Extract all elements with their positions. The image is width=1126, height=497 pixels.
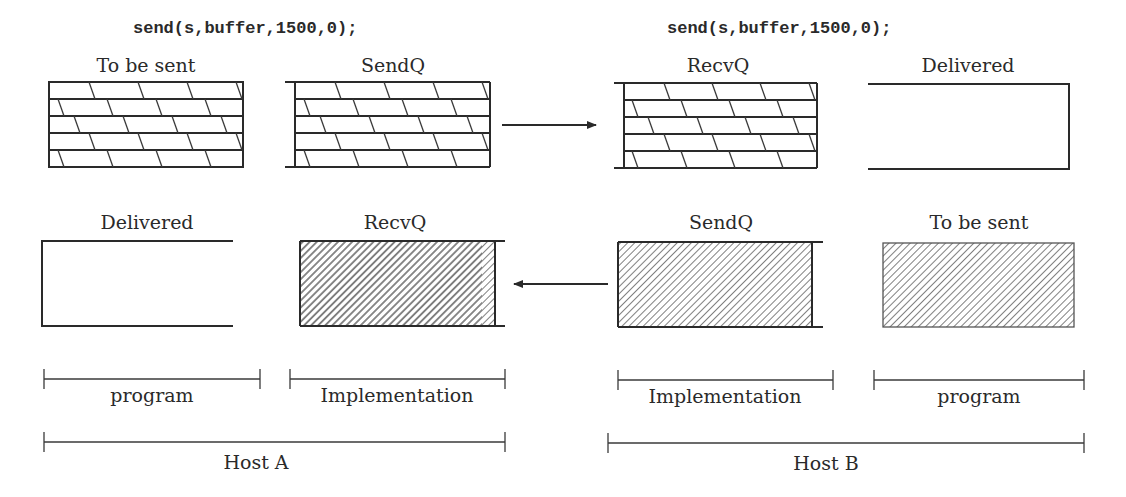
host-b-sendq-label: SendQ — [689, 211, 753, 233]
host-b-bracket — [608, 433, 1084, 453]
host-a-program-label: program — [110, 384, 193, 406]
host-b-to-be-sent-buffer — [883, 243, 1074, 327]
host-b-label: Host B — [793, 452, 858, 474]
host-b-recvq-buffer — [614, 83, 817, 168]
host-a-bracket — [44, 432, 505, 452]
host-a-to-be-sent-label: To be sent — [97, 54, 196, 76]
host-b-recvq-label: RecvQ — [687, 54, 750, 76]
host-b-send-call: send(s,buffer,1500,0); — [667, 19, 891, 38]
host-a-delivered-buffer — [42, 241, 233, 326]
host-a-sendq-buffer — [285, 82, 490, 167]
host-a-sendq-label: SendQ — [361, 54, 425, 76]
host-a-recvq-buffer — [300, 241, 505, 326]
host-b-program-label: program — [937, 385, 1020, 407]
host-a-label: Host A — [223, 451, 288, 473]
host-b-sendq-buffer — [618, 242, 823, 327]
host-a-send-call: send(s,buffer,1500,0); — [133, 19, 357, 38]
host-b-delivered-buffer — [868, 84, 1069, 169]
host-b-implementation-label: Implementation — [649, 385, 802, 407]
host-a-recvq-label: RecvQ — [364, 211, 427, 233]
host-a-to-be-sent-buffer — [49, 82, 243, 167]
host-b-to-be-sent-label: To be sent — [930, 211, 1029, 233]
host-a-implementation-label: Implementation — [321, 384, 474, 406]
host-a-delivered-label: Delivered — [100, 211, 193, 233]
host-b-delivered-label: Delivered — [921, 54, 1014, 76]
tcp-buffer-diagram: send(s,buffer,1500,0); send(s,buffer,150… — [0, 0, 1126, 497]
